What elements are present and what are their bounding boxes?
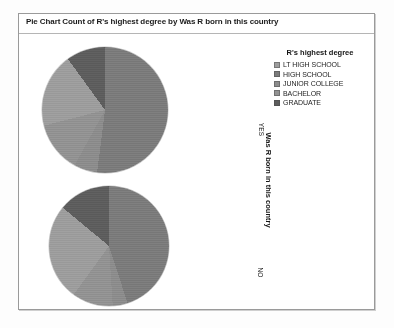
legend-swatch-icon (274, 90, 280, 96)
pie-chart-no[interactable] (49, 186, 169, 306)
legend: R's highest degree LT HIGH SCHOOLHIGH SC… (274, 48, 366, 108)
legend-swatch-icon (274, 71, 280, 77)
axis-title: Was R born in this country (264, 132, 273, 227)
legend-item[interactable]: HIGH SCHOOL (274, 70, 366, 79)
plot-area: YES Was R born in this country NO R's hi… (19, 34, 374, 309)
legend-item-label: LT HIGH SCHOOL (283, 60, 341, 69)
pie-texture-overlay (49, 186, 169, 306)
legend-item-label: GRADUATE (283, 98, 321, 107)
chart-title-band: Pie Chart Count of R's highest degree by… (19, 14, 374, 33)
legend-item[interactable]: BACHELOR (274, 89, 366, 98)
legend-item[interactable]: GRADUATE (274, 98, 366, 107)
legend-item-label: HIGH SCHOOL (283, 70, 331, 79)
legend-item-label: JUNIOR COLLEGE (283, 79, 343, 88)
legend-swatch-icon (274, 100, 280, 106)
legend-item[interactable]: LT HIGH SCHOOL (274, 60, 366, 69)
pie-chart-yes[interactable] (42, 47, 168, 173)
legend-item[interactable]: JUNIOR COLLEGE (274, 79, 366, 88)
pie-texture-overlay (42, 47, 168, 173)
chart-frame: Pie Chart Count of R's highest degree by… (18, 13, 375, 310)
legend-title: R's highest degree (274, 48, 366, 57)
legend-swatch-icon (274, 62, 280, 68)
legend-swatch-icon (274, 81, 280, 87)
axis-tick-no: NO (257, 267, 264, 277)
legend-item-label: BACHELOR (283, 89, 321, 98)
chart-screenshot: Pie Chart Count of R's highest degree by… (0, 0, 394, 328)
page-title: Pie Chart Count of R's highest degree by… (26, 17, 278, 26)
legend-item-list: LT HIGH SCHOOLHIGH SCHOOLJUNIOR COLLEGEB… (274, 60, 366, 107)
